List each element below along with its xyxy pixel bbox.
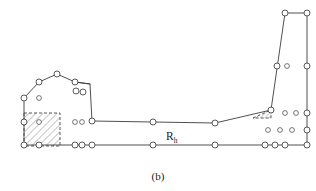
boundary-node	[21, 95, 27, 101]
boundary-node	[268, 107, 274, 113]
interior-node	[37, 96, 42, 101]
boundary-node	[72, 79, 78, 85]
boundary-node	[272, 142, 278, 148]
figure-caption: (b)	[152, 170, 165, 183]
boundary-node	[89, 142, 95, 148]
boundary-node	[282, 10, 288, 16]
boundary-node	[73, 88, 79, 94]
boundary-node	[212, 120, 218, 126]
hatched-square-shape	[24, 113, 60, 146]
figure-container: Rh (b)	[0, 0, 316, 191]
boundary-node	[36, 79, 42, 85]
interior-node	[283, 111, 288, 116]
boundary-node	[304, 10, 310, 16]
boundary-node	[282, 142, 288, 148]
boundary-node	[79, 142, 85, 148]
boundary-node	[304, 63, 310, 69]
interior-node	[37, 120, 42, 125]
interior-node	[294, 111, 299, 116]
boundary-node	[54, 71, 60, 77]
interior-node	[278, 128, 283, 133]
boundary-node	[21, 142, 27, 148]
boundary-node	[21, 119, 27, 125]
boundary-node	[89, 118, 95, 124]
domain-boundary	[24, 13, 307, 145]
interior-node	[266, 128, 271, 133]
boundary-outline-path	[24, 13, 307, 145]
boundary-node	[274, 63, 280, 69]
boundary-node	[304, 142, 310, 148]
interior-node	[80, 120, 85, 125]
interior-node	[285, 64, 290, 69]
boundary-node	[212, 142, 218, 148]
boundary-node	[80, 89, 86, 95]
boundary-node	[72, 142, 78, 148]
boundary-node	[262, 142, 268, 148]
boundary-node	[304, 127, 310, 133]
hatched-square-region	[24, 113, 60, 146]
boundary-node	[150, 119, 156, 125]
domain-label-text: Rh	[166, 130, 178, 145]
domain-mesh-diagram: Rh (b)	[0, 0, 316, 191]
boundary-node	[36, 142, 42, 148]
interior-node	[73, 120, 78, 125]
boundary-node-group	[21, 10, 310, 148]
boundary-node	[150, 142, 156, 148]
domain-label-subscript: h	[174, 136, 178, 145]
interior-node	[290, 128, 295, 133]
boundary-node	[304, 110, 310, 116]
